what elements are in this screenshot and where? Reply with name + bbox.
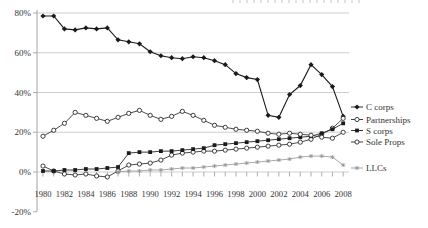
x-tick-label: 2004 — [292, 189, 310, 199]
y-tick-label: 20% — [15, 127, 32, 137]
x-tick-label: 1992 — [163, 189, 180, 199]
y-axis-labels: 80%60%40%20%0%-20% — [12, 8, 32, 217]
x-tick-label: 1988 — [120, 189, 137, 199]
x-tick-label: 1990 — [142, 189, 159, 199]
x-tick-label: 1996 — [206, 189, 224, 199]
chart-svg: 80%60%40%20%0%-20%1980198219841986198819… — [0, 0, 428, 228]
legend-item-partnerships: Partnerships — [351, 115, 411, 125]
legend-item-c-corps: C corps — [351, 102, 394, 112]
legend-item-s-corps: S corps — [351, 126, 393, 136]
gridlines — [33, 13, 349, 212]
x-tick-label: 2000 — [249, 189, 266, 199]
legend: C corpsPartnershipsS corpsSole PropsLLCs — [351, 102, 411, 173]
y-tick-label: 60% — [15, 48, 32, 58]
series-c-corps — [40, 13, 345, 120]
legend-label: LLCs — [366, 163, 387, 173]
legend-label: S corps — [366, 126, 393, 136]
y-tick-label: 0% — [19, 167, 32, 177]
series-s-corps — [41, 121, 345, 173]
x-tick-label: 2006 — [313, 189, 331, 199]
x-axis-labels: 1980198219841986198819901992199419961998… — [34, 189, 351, 199]
legend-item-sole-props: Sole Props — [351, 137, 405, 147]
series-sole-props — [41, 108, 345, 140]
legend-label: Sole Props — [366, 137, 405, 147]
legend-item-llcs: LLCs — [351, 163, 387, 173]
x-tick-label: 1998 — [227, 189, 244, 199]
cropped-text-artifact — [232, 0, 360, 3]
legend-label: Partnerships — [366, 115, 411, 125]
y-tick-label: 80% — [15, 8, 32, 18]
y-tick-label: 40% — [15, 88, 32, 98]
x-tick-label: 2008 — [335, 189, 352, 199]
x-tick-label: 2002 — [270, 189, 287, 199]
x-tick-label: 1984 — [77, 189, 95, 199]
x-tick-label: 1986 — [99, 189, 117, 199]
x-tick-label: 1982 — [56, 189, 73, 199]
chart: 80%60%40%20%0%-20%1980198219841986198819… — [0, 0, 428, 228]
x-tick-label: 1980 — [34, 189, 51, 199]
y-tick-label: -20% — [12, 207, 32, 217]
legend-label: C corps — [366, 102, 394, 112]
x-tick-label: 1994 — [184, 189, 202, 199]
